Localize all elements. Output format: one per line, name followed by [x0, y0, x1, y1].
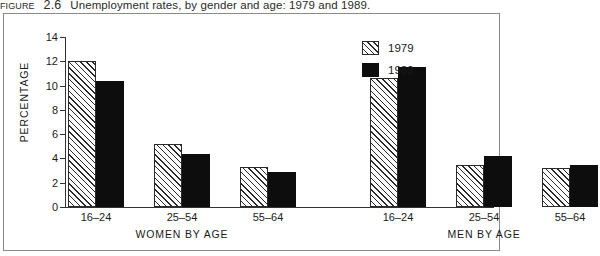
y-axis-tick-label-wrap: 10	[14, 81, 58, 92]
y-axis-tick-label: 8	[18, 105, 58, 116]
y-axis-tick-label: 2	[18, 178, 58, 189]
legend-swatch-hatched-icon	[362, 41, 379, 55]
x-axis-group-label: MEN BY AGE	[404, 228, 564, 240]
y-axis-tick-label-wrap: 14	[14, 32, 58, 43]
bar-1989-55-64-women	[268, 172, 296, 207]
bar-1979-25-54-women	[154, 144, 182, 207]
y-axis-tick-label: 10	[18, 81, 58, 92]
legend-label-1989: 1989	[388, 63, 414, 77]
legend-item-1989: 1989	[362, 62, 462, 84]
y-axis-tick	[60, 86, 65, 87]
y-axis-tick	[60, 158, 65, 159]
y-axis-tick	[60, 134, 65, 135]
bar-1989-16-24-men	[398, 67, 426, 207]
y-axis-tick-label-wrap: 2	[14, 178, 58, 189]
bar-1979-16-24-men	[370, 78, 398, 207]
legend-label-1979: 1979	[388, 41, 414, 55]
x-axis-category-label: 25–54	[152, 211, 212, 223]
x-axis-category-label: 25–54	[454, 211, 514, 223]
x-axis-category-label: 16–24	[66, 211, 126, 223]
y-axis-tick-label: 4	[18, 153, 58, 164]
y-axis-tick-label-wrap: 0	[14, 202, 58, 213]
x-axis-category-label: 55–64	[540, 211, 600, 223]
legend-item-1979: 1979	[362, 40, 462, 62]
y-axis-tick	[60, 61, 65, 62]
bar-1989-25-54-men	[484, 156, 512, 207]
y-axis-tick	[60, 183, 65, 184]
y-axis-tick-label: 6	[18, 129, 58, 140]
y-axis-tick-label: 0	[18, 202, 58, 213]
y-axis-tick-label-wrap: 12	[14, 56, 58, 67]
figure-caption-text: Unemployment rates, by gender and age: 1…	[70, 0, 370, 11]
figure-caption: FIGURE2.6Unemployment rates, by gender a…	[0, 0, 506, 12]
bar-1979-25-54-men	[456, 165, 484, 208]
x-axis-group-label: WOMEN BY AGE	[102, 228, 262, 240]
bar-1979-55-64-men	[542, 168, 570, 207]
y-axis-tick-label-wrap: 4	[14, 153, 58, 164]
bar-1979-16-24-women	[68, 61, 96, 207]
figure-label: FIGURE	[0, 0, 35, 12]
x-axis-line	[65, 207, 494, 208]
bar-1989-25-54-women	[182, 154, 210, 207]
y-axis-tick-label-wrap: 6	[14, 129, 58, 140]
y-axis-tick	[60, 37, 65, 38]
y-axis-tick-label-wrap: 8	[14, 105, 58, 116]
x-axis-category-label: 55–64	[238, 211, 298, 223]
bar-1979-55-64-women	[240, 167, 268, 207]
figure-number: 2.6	[44, 0, 62, 12]
bar-1989-55-64-men	[570, 165, 598, 208]
bar-1989-16-24-women	[96, 81, 124, 207]
y-axis-tick-label: 14	[18, 32, 58, 43]
y-axis-tick-label: 12	[18, 56, 58, 67]
x-axis-category-label: 16–24	[368, 211, 428, 223]
legend: 1979 1989	[362, 40, 462, 84]
legend-swatch-solid-icon	[362, 63, 379, 77]
y-axis-tick	[60, 110, 65, 111]
